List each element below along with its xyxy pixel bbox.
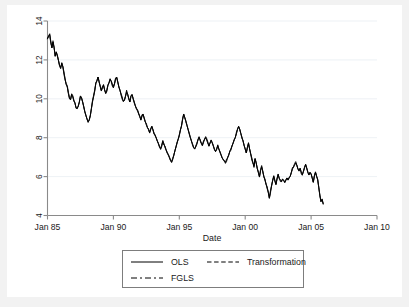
y-tick-label: 6 [35, 174, 44, 179]
axis-lines [48, 21, 378, 216]
x-tick-label: Jan 10 [364, 222, 390, 232]
y-tick-label: 8 [35, 135, 44, 140]
x-tick-label: Jan 05 [298, 222, 324, 232]
y-axis-ticks: 468101214 [35, 16, 48, 218]
x-tick-label: Jan 00 [232, 222, 258, 232]
legend-label-transformation: Transformation [247, 257, 306, 267]
y-tick-label: 4 [35, 213, 44, 218]
legend-label-ols: OLS [171, 257, 189, 267]
y-tick-label: 10 [35, 94, 44, 104]
line-chart: 468101214 Jan 85Jan 90Jan 95Jan 00Jan 05… [0, 0, 409, 307]
legend-label-fgls: FGLS [171, 273, 194, 283]
chart-legend: OLS Transformation FGLS [123, 251, 306, 288]
x-tick-label: Jan 85 [35, 222, 61, 232]
chart-container: 468101214 Jan 85Jan 90Jan 95Jan 00Jan 05… [0, 0, 409, 307]
x-tick-label: Jan 90 [100, 222, 126, 232]
data-series-group [48, 34, 324, 205]
figure-background: 468101214 Jan 85Jan 90Jan 95Jan 00Jan 05… [0, 0, 409, 307]
x-axis-title: Date [203, 233, 222, 243]
x-tick-label: Jan 95 [166, 222, 192, 232]
x-axis-ticks: Jan 85Jan 90Jan 95Jan 00Jan 05Jan 10 [35, 216, 391, 232]
y-tick-label: 14 [35, 16, 44, 26]
gridlines [48, 21, 378, 216]
y-tick-label: 12 [35, 55, 44, 65]
